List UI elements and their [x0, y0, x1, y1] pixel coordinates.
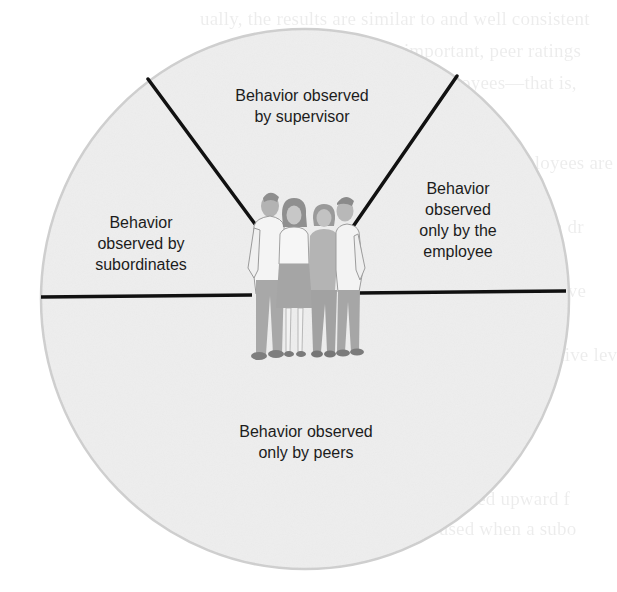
region-label-subordinates: Behavior observed by subordinates	[95, 212, 187, 275]
divider-line-left	[41, 295, 252, 297]
region-label-line: Behavior observed	[239, 421, 372, 442]
region-label-line: Behavior observed	[235, 85, 368, 106]
region-label-line: observed by	[95, 233, 187, 254]
region-label-supervisor: Behavior observed by supervisor	[235, 85, 368, 127]
region-label-line: Behavior	[419, 178, 496, 199]
region-label-employee: Behavior observed only by the employee	[419, 178, 496, 262]
region-label-peers: Behavior observed only by peers	[239, 421, 372, 463]
region-label-line: observed	[419, 199, 496, 220]
region-label-line: Behavior	[95, 212, 187, 233]
region-label-line: employee	[419, 241, 496, 262]
region-label-line: only by peers	[239, 442, 372, 463]
divider-line-right	[358, 291, 566, 293]
region-label-line: only by the	[419, 220, 496, 241]
region-label-line: by supervisor	[235, 106, 368, 127]
region-label-line: subordinates	[95, 254, 187, 275]
